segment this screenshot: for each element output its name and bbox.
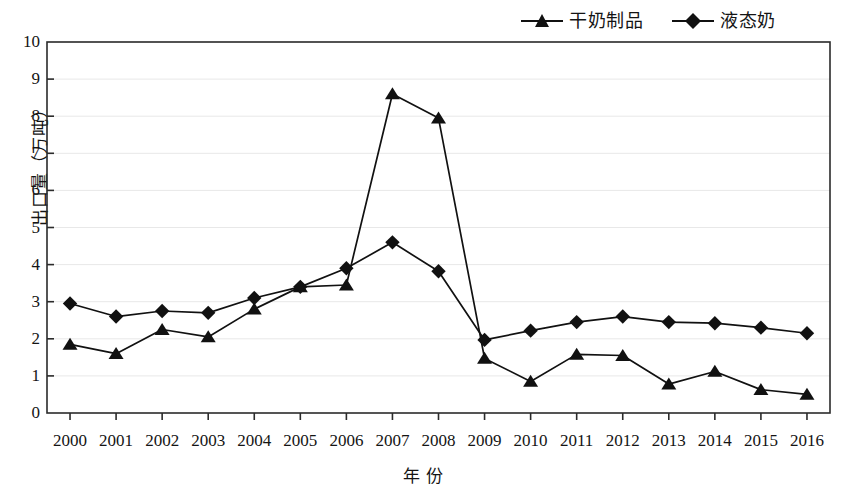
- data-point-marker: [385, 235, 399, 249]
- data-point-marker: [63, 296, 77, 310]
- data-point-marker: [753, 383, 768, 395]
- data-point-marker: [662, 315, 676, 329]
- data-point-marker: [385, 87, 400, 99]
- data-point-marker: [569, 315, 583, 329]
- data-point-marker: [523, 323, 537, 337]
- data-point-marker: [431, 264, 445, 278]
- plot-area: [0, 0, 847, 492]
- data-point-marker: [155, 323, 170, 335]
- data-point-marker: [708, 316, 722, 330]
- data-point-marker: [431, 111, 446, 123]
- series-line-1: [70, 94, 807, 395]
- data-point-marker: [247, 291, 261, 305]
- data-point-marker: [616, 309, 630, 323]
- data-point-marker: [707, 365, 722, 377]
- chart-container: 干奶制品 液态奶 出口量（万吨） 年 份 012345678910 200020…: [0, 0, 847, 492]
- data-point-marker: [800, 326, 814, 340]
- data-point-marker: [477, 352, 492, 364]
- data-point-marker: [109, 309, 123, 323]
- data-point-marker: [155, 304, 169, 318]
- data-point-marker: [754, 320, 768, 334]
- data-point-marker: [201, 306, 215, 320]
- data-point-marker: [523, 375, 538, 387]
- data-point-marker: [63, 338, 78, 350]
- series-line-2: [70, 242, 807, 340]
